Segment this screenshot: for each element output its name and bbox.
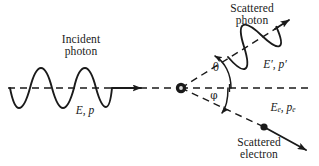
compton-scattering-figure: Incident photon E, p Scattered photon E′… bbox=[0, 0, 319, 166]
incident-photon-label: Incident photon bbox=[48, 33, 114, 57]
scattered-photon-label-line1: Scattered bbox=[216, 2, 288, 14]
incident-photon-label-line2: photon bbox=[48, 45, 114, 57]
scattered-photon-label: Scattered photon bbox=[216, 2, 288, 26]
electron-momentum-subscript: e bbox=[292, 105, 295, 114]
incident-energy-momentum-label: E, p bbox=[62, 104, 108, 116]
scattered-electron-label: Scattered electron bbox=[222, 136, 296, 160]
incident-photon-label-line1: Incident bbox=[48, 33, 114, 45]
electron-energy-momentum-label: Ee, pe bbox=[256, 101, 310, 114]
scattered-photon-label-line2: photon bbox=[216, 14, 288, 26]
scattered-photon-energy-momentum-label: E′, p′ bbox=[252, 58, 298, 70]
scattered-photon-dashed-line bbox=[181, 21, 288, 88]
phi-angle-label: φ bbox=[207, 90, 221, 101]
scattered-electron-dot bbox=[260, 123, 267, 130]
theta-angle-label: θ bbox=[209, 62, 223, 73]
scattered-electron-label-line1: Scattered bbox=[222, 136, 296, 148]
scattered-electron-dashed-line bbox=[181, 88, 264, 127]
scattering-vertex-highlight bbox=[179, 86, 183, 90]
scattered-electron-label-line2: electron bbox=[222, 148, 296, 160]
